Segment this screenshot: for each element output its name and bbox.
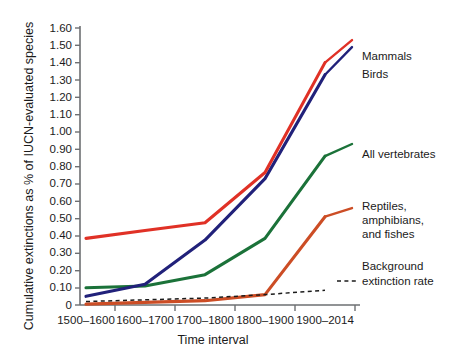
y-tick-label: 1.10	[50, 108, 72, 120]
x-tick-label: 1900–2014	[296, 314, 354, 326]
y-tick-label: 0.30	[50, 246, 72, 258]
x-tick-label: 1800–1900	[236, 314, 294, 326]
y-tick-label: 0	[66, 299, 72, 311]
y-tick-label: 1.00	[50, 125, 72, 137]
y-tick-label: 1.60	[50, 22, 72, 34]
series-label-reptiles-line3: and fishes	[362, 228, 415, 240]
series-label-background-line2: extinction rate	[362, 275, 434, 287]
x-axis-title: Time interval	[177, 333, 248, 347]
y-tick-label: 0.60	[50, 195, 72, 207]
y-axis-tick-labels: 1.60 1.50 1.40 1.30 1.20 1.10 1.00 0.90 …	[50, 22, 72, 311]
x-tick-label: 1600–1700	[116, 314, 174, 326]
y-tick-label: 0.10	[50, 281, 72, 293]
series-label-reptiles-line1: Reptiles,	[362, 200, 407, 212]
series-label-birds: Birds	[362, 68, 388, 80]
series-label-background-line1: Background	[362, 260, 423, 272]
y-tick-label: 1.30	[50, 74, 72, 86]
x-axis-tick-labels: 1500–1600 1600–1700 1700–1800 1800–1900 …	[57, 314, 354, 326]
y-tick-label: 1.50	[50, 39, 72, 51]
y-tick-label: 1.20	[50, 91, 72, 103]
y-tick-label: 0.20	[50, 264, 72, 276]
x-tick-label: 1500–1600	[57, 314, 115, 326]
extinction-rate-line-chart: Cumulative extinctions as % of IUCN-eval…	[0, 0, 455, 359]
series-label-mammals: Mammals	[362, 50, 412, 62]
y-tick-label: 0.40	[50, 229, 72, 241]
series-label-reptiles-line2: amphibians,	[362, 214, 424, 226]
y-tick-label: 0.50	[50, 212, 72, 224]
y-tick-label: 0.70	[50, 177, 72, 189]
y-axis-title: Cumulative extinctions as % of IUCN-eval…	[22, 22, 36, 330]
y-tick-label: 0.90	[50, 143, 72, 155]
series-label-all-vertebrates: All vertebrates	[362, 148, 436, 160]
y-tick-label: 1.40	[50, 56, 72, 68]
x-tick-label: 1700–1800	[176, 314, 234, 326]
y-tick-label: 0.80	[50, 160, 72, 172]
